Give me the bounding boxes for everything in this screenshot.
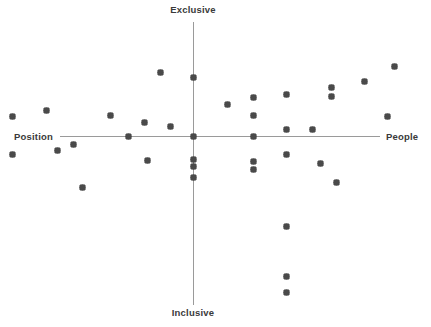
data-point	[189, 132, 196, 139]
data-point	[361, 77, 368, 84]
data-point	[283, 125, 290, 132]
data-point	[250, 132, 257, 139]
data-point	[144, 157, 151, 164]
data-point	[79, 184, 86, 191]
data-point	[189, 173, 196, 180]
data-point	[141, 119, 148, 126]
data-point	[43, 107, 50, 114]
data-point	[9, 150, 16, 157]
data-point	[390, 63, 397, 70]
data-point	[189, 74, 196, 81]
data-point	[333, 178, 340, 185]
data-point	[283, 289, 290, 296]
data-point	[309, 125, 316, 132]
data-point	[328, 83, 335, 90]
data-point	[317, 160, 324, 167]
data-point	[283, 222, 290, 229]
axis-label-exclusive: Exclusive	[170, 4, 216, 15]
x-axis-line	[60, 136, 380, 137]
data-point	[224, 101, 231, 108]
data-point	[189, 163, 196, 170]
data-point	[156, 69, 163, 76]
data-point	[167, 123, 174, 130]
data-point	[283, 150, 290, 157]
data-point	[107, 112, 114, 119]
data-point	[54, 147, 61, 154]
data-point	[250, 94, 257, 101]
data-point	[250, 158, 257, 165]
scatter-chart: Exclusive Inclusive Position People	[0, 0, 431, 327]
axis-label-position: Position	[14, 131, 53, 142]
data-point	[283, 272, 290, 279]
data-point	[125, 132, 132, 139]
data-point	[250, 166, 257, 173]
data-point	[328, 93, 335, 100]
axis-label-people: People	[386, 131, 418, 142]
data-point	[384, 113, 391, 120]
data-point	[9, 113, 16, 120]
axis-label-inclusive: Inclusive	[172, 307, 214, 318]
data-point	[69, 141, 76, 148]
data-point	[250, 112, 257, 119]
data-point	[283, 91, 290, 98]
